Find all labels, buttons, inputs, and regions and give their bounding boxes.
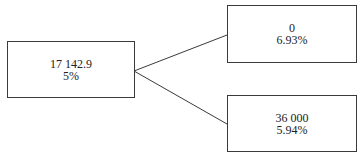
lower-node: 36 000 5.94%	[227, 95, 357, 152]
edge-root-to-lower	[134, 71, 227, 124]
upper-percent: 6.93%	[277, 34, 308, 46]
root-node: 17 142.9 5%	[7, 41, 135, 98]
lower-value: 36 000	[276, 112, 309, 124]
root-value: 17 142.9	[50, 58, 92, 70]
root-percent: 5%	[63, 70, 79, 82]
upper-node: 0 6.93%	[227, 5, 357, 63]
lower-percent: 5.94%	[277, 124, 308, 136]
edge-root-to-upper	[134, 35, 227, 71]
